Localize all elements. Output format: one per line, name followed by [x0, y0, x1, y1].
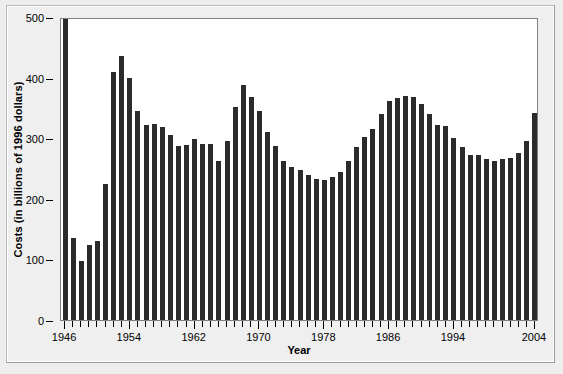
x-axis-title: Year [60, 344, 538, 356]
x-tick-mark [485, 321, 486, 327]
bar [362, 137, 367, 320]
bar [265, 132, 270, 320]
bar [306, 175, 311, 320]
bar [484, 159, 489, 320]
bar [200, 144, 205, 320]
x-tick-mark [169, 321, 170, 327]
x-tick-mark [218, 321, 219, 327]
bar [95, 241, 100, 320]
chart-figure: Costs (in billions of 1996 dollars) 0100… [0, 0, 563, 374]
bar [338, 172, 343, 320]
bar [119, 56, 124, 320]
x-tick-mark [186, 321, 187, 327]
x-tick-mark [356, 321, 357, 327]
x-tick-mark [105, 321, 106, 327]
bar [168, 135, 173, 320]
bar [79, 261, 84, 320]
bar [500, 159, 505, 320]
x-tick-mark [404, 321, 405, 327]
bar [322, 180, 327, 320]
bar [314, 179, 319, 320]
x-tick-mark [461, 321, 462, 327]
bar [476, 155, 481, 320]
x-tick-mark [340, 321, 341, 327]
x-tick-mark [250, 321, 251, 327]
y-tick-mark [46, 321, 53, 322]
x-tick-mark [242, 321, 243, 327]
y-axis: 0100200300400500 [0, 0, 60, 340]
x-tick-mark [121, 321, 122, 327]
bar [354, 147, 359, 320]
bar [330, 177, 335, 320]
bar-series [61, 19, 537, 320]
bar [508, 158, 513, 320]
bar [289, 167, 294, 320]
y-tick-label: 0 [38, 315, 44, 327]
bar [419, 104, 424, 320]
x-tick-mark [113, 321, 114, 327]
x-tick-mark [323, 321, 324, 329]
x-tick-mark [412, 321, 413, 327]
x-tick-mark [72, 321, 73, 327]
x-tick-mark [534, 321, 535, 329]
bar [379, 114, 384, 320]
x-tick-mark [396, 321, 397, 327]
x-tick-mark [477, 321, 478, 327]
bar [443, 126, 448, 320]
x-tick-label: 1954 [117, 331, 141, 343]
x-tick-mark [348, 321, 349, 327]
bar [532, 113, 537, 320]
x-tick-mark [388, 321, 389, 329]
bar [524, 141, 529, 320]
x-tick-label: 2004 [522, 331, 546, 343]
bar [298, 170, 303, 320]
x-tick-mark [267, 321, 268, 327]
bar [241, 85, 246, 320]
x-tick-mark [64, 321, 65, 329]
y-tick-mark [46, 139, 53, 140]
y-tick-mark [46, 200, 53, 201]
x-tick-mark [445, 321, 446, 327]
bar [63, 18, 68, 320]
y-tick-mark [46, 260, 53, 261]
x-tick-label: 1946 [52, 331, 76, 343]
bar [87, 245, 92, 320]
bar [427, 114, 432, 320]
bar [451, 138, 456, 320]
y-tick-label: 300 [26, 133, 44, 145]
x-tick-mark [380, 321, 381, 327]
x-tick-mark [291, 321, 292, 327]
bar [249, 97, 254, 320]
y-tick-label: 100 [26, 254, 44, 266]
x-tick-mark [437, 321, 438, 327]
x-tick-mark [510, 321, 511, 327]
plot-area [60, 18, 538, 321]
bar [403, 96, 408, 320]
bar [435, 125, 440, 320]
x-tick-mark [502, 321, 503, 327]
bar [468, 155, 473, 320]
x-tick-mark [194, 321, 195, 329]
x-tick-mark [96, 321, 97, 327]
x-tick-mark [88, 321, 89, 327]
bar [516, 153, 521, 320]
bar [387, 101, 392, 320]
x-tick-mark [275, 321, 276, 327]
x-tick-mark [202, 321, 203, 327]
bar [71, 238, 76, 320]
bar [460, 147, 465, 320]
bar [111, 72, 116, 320]
bar [216, 161, 221, 320]
bar [411, 97, 416, 320]
x-tick-mark [80, 321, 81, 327]
x-tick-mark [129, 321, 130, 329]
bar [492, 161, 497, 320]
bar [346, 161, 351, 320]
bar [184, 145, 189, 320]
bar [281, 161, 286, 320]
bar [395, 98, 400, 320]
x-tick-label: 1978 [311, 331, 335, 343]
bar [176, 146, 181, 320]
bar [208, 144, 213, 320]
bar [160, 127, 165, 320]
